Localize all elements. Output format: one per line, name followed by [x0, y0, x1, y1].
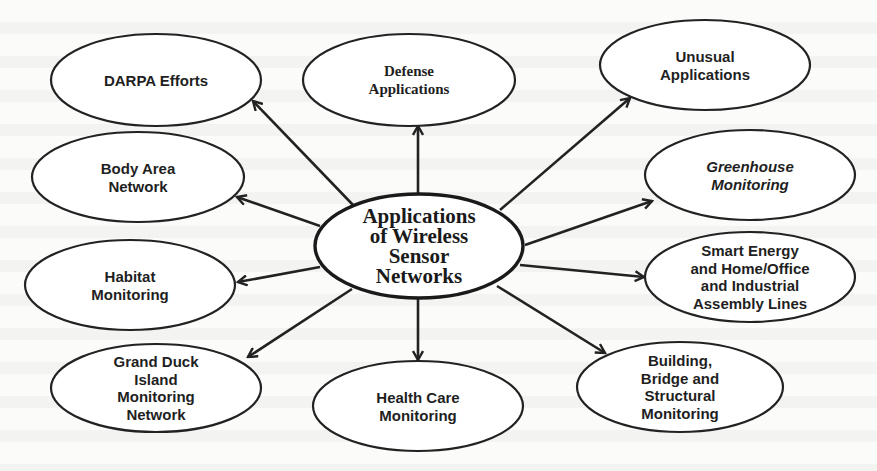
center-node: Applicationsof WirelessSensorNetworks	[315, 194, 523, 298]
label-line: Monitoring	[711, 176, 788, 193]
label-line: and Industrial	[701, 277, 799, 294]
arrow-to-unusual	[500, 98, 630, 210]
node-grand-duck: Grand DuckIslandMonitoringNetwork	[51, 344, 261, 432]
label-line: Health Care	[376, 389, 459, 406]
label-line: Greenhouse	[706, 158, 794, 175]
label-line: Building,	[648, 352, 712, 369]
node-building: Building,Bridge andStructuralMonitoring	[577, 342, 783, 432]
arrow-to-smart-energy	[520, 265, 644, 277]
label-line: Unusual	[675, 48, 734, 65]
arrow-to-greenhouse	[525, 201, 652, 245]
label-line: Island	[134, 371, 177, 388]
label-line: and Home/Office	[690, 260, 809, 277]
label-line: Habitat	[105, 268, 156, 285]
arrow-to-building	[497, 286, 605, 353]
node-smart-energy: Smart Energyand Home/Officeand Industria…	[645, 232, 855, 322]
node-unusual: UnusualApplications	[600, 20, 810, 110]
label-line: Grand Duck	[113, 353, 199, 370]
node-label: Smart Energyand Home/Officeand Industria…	[690, 242, 809, 312]
label-line: Structural	[645, 387, 716, 404]
arrow-to-body-area	[237, 197, 320, 226]
label-line: Monitoring	[641, 405, 718, 422]
label-line: Network	[126, 406, 186, 423]
node-label: GreenhouseMonitoring	[706, 158, 794, 193]
label-line: Monitoring	[379, 407, 456, 424]
node-habitat: HabitatMonitoring	[25, 240, 235, 330]
node-defense: DefenseApplications	[303, 34, 515, 126]
node-ellipse	[303, 34, 515, 126]
diagram-canvas: DARPA EffortsDefenseApplicationsUnusualA…	[0, 0, 877, 471]
label-line: Defense	[384, 63, 434, 79]
node-label: Building,Bridge andStructuralMonitoring	[641, 352, 719, 422]
node-darpa: DARPA Efforts	[51, 34, 261, 126]
label-line: Applications	[660, 66, 750, 83]
arrow-to-darpa	[253, 101, 354, 206]
label-line: Bridge and	[641, 370, 719, 387]
label-line: Monitoring	[117, 388, 194, 405]
center-label: Applicationsof WirelessSensorNetworks	[362, 204, 475, 288]
node-label: DARPA Efforts	[104, 72, 208, 89]
wsn-applications-diagram: DARPA EffortsDefenseApplicationsUnusualA…	[0, 0, 877, 471]
label-line: Monitoring	[91, 286, 168, 303]
label-line: Applications	[369, 81, 450, 97]
label-line: Assembly Lines	[693, 295, 807, 312]
node-label: Health CareMonitoring	[376, 389, 459, 424]
arrow-to-habitat	[238, 267, 320, 282]
label-line: Networks	[376, 264, 462, 288]
label-line: Smart Energy	[701, 242, 799, 259]
node-health-care: Health CareMonitoring	[313, 361, 523, 451]
arrow-to-grand-duck	[248, 289, 352, 357]
label-line: Body Area	[101, 160, 176, 177]
label-line: Network	[108, 178, 168, 195]
label-line: DARPA Efforts	[104, 72, 208, 89]
node-label: Body AreaNetwork	[101, 160, 176, 195]
node-greenhouse: GreenhouseMonitoring	[645, 130, 855, 220]
node-body-area: Body AreaNetwork	[32, 132, 244, 222]
